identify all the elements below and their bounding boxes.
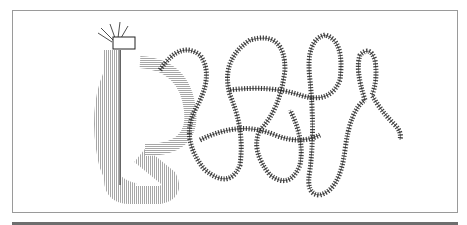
worm-illustration [0,0,467,225]
worm-body-loop [140,62,190,150]
horizontal-rule [12,222,458,225]
worm-head [113,37,135,49]
